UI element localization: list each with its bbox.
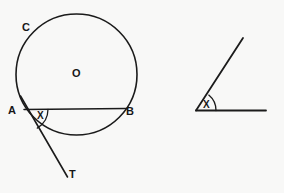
point-label-t: T [69,169,76,180]
centre-label-o: O [72,68,81,79]
point-label-c: C [22,22,30,33]
tangent-line-at [21,96,68,177]
circle-tangent-diagram [16,14,137,177]
figure-canvas [0,0,284,193]
angle-label-x-right: X [203,100,210,110]
point-label-a: A [8,105,16,116]
point-label-b: B [126,106,134,117]
geometry-figure: C O A B T X X [0,0,284,193]
angle-label-x-left: X [37,111,44,121]
